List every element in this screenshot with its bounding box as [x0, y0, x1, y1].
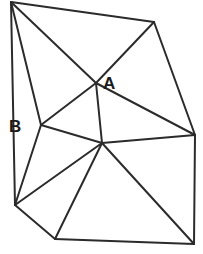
vertex-label-a: A [103, 75, 115, 92]
geometry-figure: A B [0, 0, 203, 254]
geometry-canvas [0, 0, 203, 254]
vertex-label-b: B [9, 118, 21, 135]
figure-background [0, 0, 203, 254]
edge-p3-p4 [194, 135, 195, 244]
